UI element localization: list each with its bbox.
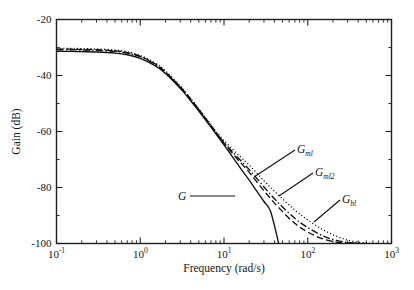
x-tick-labels: 10-1100101102103: [48, 246, 399, 260]
series-label-G: G: [178, 190, 187, 202]
x-tick-label: 103: [384, 246, 399, 260]
series-label-Gml: Gml: [297, 143, 313, 158]
curve-G: [57, 51, 279, 243]
leader-line-Gbl: [314, 200, 340, 222]
y-axis-title: Gain (dB): [10, 108, 23, 154]
x-axis-title: Frequency (rad/s): [183, 262, 265, 275]
leader-line-Gml2: [279, 173, 313, 196]
y-tick-label: -40: [37, 69, 52, 81]
curve-Gbl: [57, 49, 359, 243]
series-annotations: GGmlGml2Gbl: [178, 143, 356, 222]
leader-line-Gml: [254, 150, 295, 177]
x-tick-label: 102: [300, 246, 315, 260]
y-tick-label: -100: [31, 237, 52, 249]
y-tick-label: -80: [37, 181, 52, 193]
y-tick-label: -20: [37, 13, 52, 25]
plot-canvas: GGmlGml2Gbl 10-1100101102103 -20-40-60-8…: [0, 0, 414, 290]
x-tick-label: 101: [217, 246, 232, 260]
series-label-Gml2: Gml2: [315, 166, 335, 181]
x-tick-label: 100: [133, 246, 148, 260]
y-tick-label: -60: [37, 125, 52, 137]
series-label-Gbl: Gbl: [342, 193, 356, 208]
data-curves: [57, 48, 379, 243]
y-tick-labels: -20-40-60-80-100: [31, 13, 52, 249]
bode-magnitude-plot: GGmlGml2Gbl 10-1100101102103 -20-40-60-8…: [0, 0, 414, 290]
curve-Gml2: [57, 50, 366, 244]
curve-Gml: [57, 48, 379, 243]
